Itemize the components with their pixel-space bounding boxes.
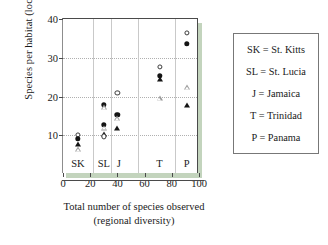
data-point-open-circle: [101, 134, 106, 139]
y-gridline: [63, 58, 197, 59]
y-tick-label: 20: [48, 91, 59, 102]
open-triangle-inner: [102, 106, 106, 109]
x-tick-mark: [172, 173, 173, 177]
y-tick-mark: [59, 58, 63, 59]
x-axis-line: [62, 180, 204, 181]
legend-row-3: T = Trinidad: [250, 110, 302, 121]
open-triangle-inner: [102, 127, 106, 130]
group-divider: [111, 19, 112, 173]
x-tick-mark: [117, 173, 118, 177]
y-tick-label: 40: [48, 14, 59, 25]
x-axis-label-line2: (regional diversity): [34, 214, 234, 228]
scatter-plot-figure: Species per habitat (local diversity) 10…: [0, 0, 328, 245]
data-point-open-circle: [184, 30, 189, 35]
legend-row-1: SL = St. Lucia: [246, 66, 306, 77]
group-label-sk: SK: [71, 158, 84, 169]
data-point-filled-triangle: [184, 103, 190, 108]
legend-row-4: P = Panama: [252, 132, 301, 143]
data-point-open-triangle: [157, 96, 163, 101]
data-point-open-circle: [157, 64, 162, 69]
legend-row-2: J = Jamaica: [252, 88, 300, 99]
group-divider: [175, 19, 176, 173]
y-gridline: [63, 135, 197, 136]
data-point-open-triangle: [75, 147, 81, 152]
x-axis-label: Total number of species observed (region…: [34, 200, 234, 227]
legend-box: SK = St. KittsSL = St. LuciaJ = JamaicaT…: [233, 33, 319, 154]
x-tick-mark: [145, 173, 146, 177]
plot-area: 10203040020406080100SKSLJTP: [62, 18, 198, 173]
y-gridline: [63, 97, 197, 98]
data-point-open-triangle: [114, 116, 120, 121]
open-triangle-inner: [185, 86, 189, 89]
open-triangle-inner: [157, 97, 161, 100]
y-axis-label: Species per habitat (local diversity): [23, 0, 34, 112]
legend-row-0: SK = St. Kitts: [247, 44, 305, 55]
y-tick-label: 30: [48, 52, 59, 63]
y-tick-mark: [59, 135, 63, 136]
data-point-filled-triangle: [157, 76, 163, 81]
y-tick-label: 10: [48, 130, 59, 141]
x-axis-label-line1: Total number of species observed: [64, 201, 205, 212]
group-label-p: P: [184, 158, 190, 169]
group-label-j: J: [117, 158, 121, 169]
y-axis-label-wrapper: Species per habitat (local diversity): [0, 0, 30, 180]
data-point-filled-circle: [184, 41, 189, 46]
open-triangle-inner: [115, 117, 119, 120]
group-label-t: T: [156, 158, 162, 169]
data-point-filled-triangle: [114, 126, 120, 131]
y-tick-mark: [59, 19, 63, 20]
x-tick-mark: [63, 173, 64, 177]
y-tick-mark: [59, 97, 63, 98]
plot-area-outer: 10203040020406080100SKSLJTP: [62, 18, 198, 173]
group-divider: [93, 19, 94, 173]
group-label-sl: SL: [98, 158, 110, 169]
data-point-filled-circle: [75, 136, 80, 141]
data-point-open-circle: [115, 90, 120, 95]
x-tick-mark: [90, 173, 91, 177]
open-triangle-inner: [76, 148, 80, 151]
x-tick-mark: [199, 173, 200, 177]
data-point-open-triangle: [101, 125, 107, 130]
data-point-open-triangle: [184, 85, 190, 90]
group-divider: [138, 19, 139, 173]
data-point-open-triangle: [101, 105, 107, 110]
